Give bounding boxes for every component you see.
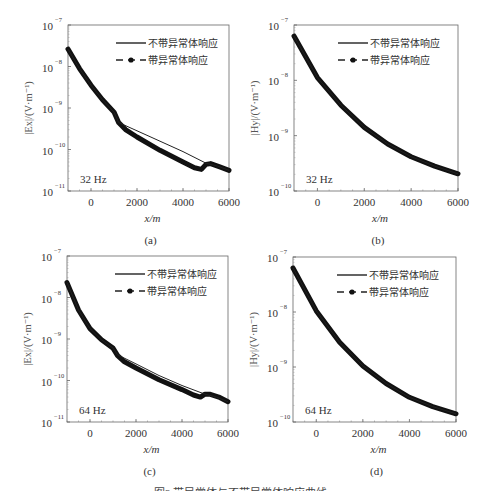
svg-text:−7: −7	[280, 248, 288, 255]
svg-text:−9: −9	[281, 127, 288, 134]
y-tick-label: 10	[41, 417, 53, 429]
y-axis-label: |Ex|/(V·m⁻¹)	[22, 312, 34, 366]
legend-label-without-anomaly: 不带异常体响应	[370, 37, 440, 49]
panel-label: (b)	[372, 234, 385, 247]
legend: 不带异常体响应带异常体响应	[338, 37, 440, 66]
chart-panel-b: 020004000600010−1010−910−810−7x/m(b)|Hy|…	[249, 16, 470, 247]
y-tick-label: 10	[41, 251, 53, 263]
x-tick-label: 2000	[352, 427, 375, 439]
legend-marker-icon	[127, 288, 132, 293]
y-tick-label: 10	[268, 186, 280, 198]
frequency-annotation: 64 Hz	[79, 404, 106, 416]
panel-label: (d)	[370, 465, 383, 478]
x-axis-label: x/m	[370, 443, 387, 455]
legend-marker-icon	[349, 289, 354, 294]
legend-label-without-anomaly: 不带异常体响应	[147, 268, 217, 280]
svg-text:−11: −11	[55, 182, 65, 189]
x-tick-label: 0	[87, 427, 93, 439]
frequency-annotation: 32 Hz	[80, 173, 107, 185]
svg-text:−9: −9	[54, 330, 61, 337]
x-tick-label: 4000	[398, 427, 421, 439]
svg-text:−10: −10	[55, 141, 65, 148]
figure-caption: 图3 带异常体与不带异常体响应曲线	[0, 484, 481, 491]
legend-label-without-anomaly: 不带异常体响应	[369, 269, 439, 281]
plot-frame	[293, 257, 456, 422]
x-tick-label: 2000	[125, 427, 148, 439]
x-tick-label: 0	[314, 427, 320, 439]
legend-label-with-anomaly: 带异常体响应	[147, 285, 207, 297]
y-tick-label: 10	[268, 75, 280, 87]
y-axis-label: |Ex|/(V·m⁻¹)	[23, 81, 35, 135]
y-tick-label: 10	[42, 103, 54, 115]
series-with-anomaly	[67, 283, 228, 402]
svg-text:−7: −7	[55, 16, 63, 23]
svg-text:−7: −7	[54, 247, 62, 254]
x-tick-label: 6000	[217, 427, 240, 439]
frequency-annotation: 32 Hz	[306, 173, 333, 185]
legend-marker-icon	[350, 57, 355, 62]
y-tick-label: 10	[42, 186, 54, 198]
x-tick-label: 4000	[171, 427, 194, 439]
frequency-annotation: 64 Hz	[305, 404, 332, 416]
legend-marker-icon	[128, 57, 133, 62]
y-tick-label: 10	[267, 252, 279, 264]
legend: 不带异常体响应带异常体响应	[337, 269, 439, 298]
series-with-anomaly	[68, 49, 229, 170]
svg-text:−8: −8	[281, 71, 288, 78]
x-axis-label: x/m	[371, 212, 388, 224]
series-without-anomaly	[67, 283, 228, 402]
y-tick-label: 10	[267, 307, 279, 319]
panel-label: (c)	[143, 465, 156, 478]
svg-text:−10: −10	[281, 182, 291, 189]
x-tick-label: 6000	[447, 196, 470, 208]
x-tick-label: 4000	[172, 196, 195, 208]
y-tick-label: 10	[268, 131, 280, 143]
legend: 不带异常体响应带异常体响应	[115, 268, 217, 297]
svg-text:−10: −10	[280, 413, 290, 420]
y-axis-label: |Hy|/(V·m⁻¹)	[249, 80, 261, 135]
y-axis-label: |Hy|/(V·m⁻¹)	[248, 312, 260, 367]
legend-label-with-anomaly: 带异常体响应	[370, 54, 430, 66]
legend-label-with-anomaly: 带异常体响应	[148, 54, 208, 66]
x-tick-label: 4000	[400, 196, 423, 208]
y-tick-label: 10	[267, 417, 279, 429]
y-tick-label: 10	[41, 376, 53, 388]
svg-text:−10: −10	[54, 372, 64, 379]
y-tick-label: 10	[42, 145, 54, 157]
svg-text:−7: −7	[281, 16, 289, 23]
y-tick-label: 10	[267, 362, 279, 374]
series-without-anomaly	[68, 49, 229, 170]
x-axis-label: x/m	[143, 443, 160, 455]
x-tick-label: 0	[315, 196, 321, 208]
y-tick-label: 10	[41, 334, 53, 346]
svg-text:−11: −11	[54, 413, 64, 420]
x-tick-label: 6000	[218, 196, 241, 208]
y-tick-label: 10	[42, 20, 54, 32]
chart-panel-d: 020004000600010−1010−910−810−7x/m(d)|Hy|…	[248, 248, 468, 478]
y-tick-label: 10	[268, 20, 280, 32]
y-tick-label: 10	[41, 293, 53, 305]
svg-text:−9: −9	[55, 99, 62, 106]
legend: 不带异常体响应带异常体响应	[116, 37, 218, 66]
x-axis-label: x/m	[144, 212, 161, 224]
svg-text:−9: −9	[280, 358, 287, 365]
svg-text:−8: −8	[55, 58, 62, 65]
y-tick-label: 10	[42, 62, 54, 74]
svg-text:−8: −8	[54, 289, 61, 296]
figure: 020004000600010−1110−1010−910−810−7x/m(a…	[0, 0, 481, 491]
svg-text:−8: −8	[280, 303, 287, 310]
x-tick-label: 0	[88, 196, 94, 208]
x-tick-label: 2000	[353, 196, 376, 208]
x-tick-label: 6000	[445, 427, 468, 439]
legend-label-with-anomaly: 带异常体响应	[369, 286, 429, 298]
chart-panel-a: 020004000600010−1110−1010−910−810−7x/m(a…	[23, 16, 241, 247]
x-tick-label: 2000	[126, 196, 149, 208]
legend-label-without-anomaly: 不带异常体响应	[148, 37, 218, 49]
panel-label: (a)	[144, 234, 157, 247]
chart-panel-c: 020004000600010−1110−1010−910−810−7x/m(c…	[22, 247, 240, 478]
